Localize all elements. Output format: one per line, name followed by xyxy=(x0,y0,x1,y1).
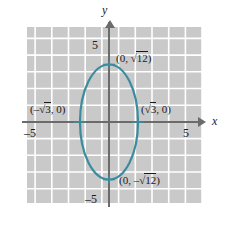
point-label-prefix: (0, xyxy=(116,52,131,64)
y-tick-label-5: 5 xyxy=(92,38,98,53)
x-axis-arrow-icon xyxy=(198,117,206,127)
y-axis xyxy=(108,22,110,207)
radicand: 12 xyxy=(136,51,148,64)
y-axis-arrow-icon xyxy=(105,20,115,28)
x-tick-label-5: 5 xyxy=(183,126,189,141)
y-axis-label: y xyxy=(102,3,107,18)
point-label-top-vertex: (0, √12) xyxy=(116,52,151,64)
x-axis-label: x xyxy=(212,114,217,129)
point-label-suffix: , 0) xyxy=(51,103,66,115)
point-label-suffix: , 0) xyxy=(156,103,171,115)
plot-panel xyxy=(27,27,202,203)
x-axis xyxy=(22,121,200,123)
gridlines xyxy=(27,27,202,203)
y-tick-label-minus5: –5 xyxy=(85,192,97,207)
radicand: 12 xyxy=(144,173,156,186)
graph-figure: y x 5 –5 –5 5 (0, √12) (0, –√12) (–√3, 0… xyxy=(0,0,229,230)
point-label-left-vertex: (–√3, 0) xyxy=(30,103,65,115)
point-label-right-vertex: (√3, 0) xyxy=(141,103,171,115)
point-label-bottom-vertex: (0, –√12) xyxy=(119,174,160,186)
point-label-suffix: ) xyxy=(148,52,152,64)
x-tick-label-minus5: –5 xyxy=(24,126,36,141)
point-label-prefix: (– xyxy=(30,103,39,115)
point-label-suffix: ) xyxy=(156,174,160,186)
point-label-prefix: (0, – xyxy=(119,174,139,186)
